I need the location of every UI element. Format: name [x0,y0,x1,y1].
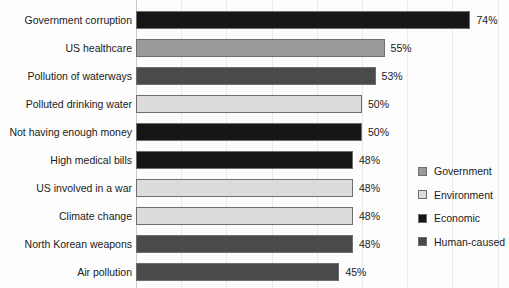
legend-item[interactable]: Economic [418,213,505,224]
legend-item[interactable]: Human-caused [418,237,505,248]
legend-swatch-icon [418,237,427,246]
category-label: Air pollution [77,258,132,286]
bar[interactable] [136,151,353,169]
bar-row: 45% [136,258,509,286]
bar-value-label: 74% [476,15,497,26]
bar-value-label: 48% [359,211,380,222]
category-label: High medical bills [50,146,132,174]
bar-value-label: 45% [345,267,366,278]
bar[interactable] [136,39,385,57]
bar-row: 50% [136,90,509,118]
legend-label: Economic [434,213,480,224]
bar[interactable] [136,95,362,113]
category-label: Polluted drinking water [26,90,132,118]
bar-value-label: 50% [368,99,389,110]
bar-row: 53% [136,62,509,90]
legend-swatch-icon [418,167,427,176]
bar-chart: Government corruptionUS healthcarePollut… [0,0,509,288]
legend-label: Human-caused [434,237,505,248]
legend-item[interactable]: Government [418,166,505,177]
category-label: US involved in a war [36,174,132,202]
bar-value-label: 55% [391,43,412,54]
category-label: US healthcare [65,34,132,62]
category-axis-labels: Government corruptionUS healthcarePollut… [0,0,132,288]
bar[interactable] [136,123,362,141]
bar-value-label: 50% [368,127,389,138]
bar[interactable] [136,179,353,197]
bar[interactable] [136,235,353,253]
category-label: North Korean weapons [25,230,132,258]
bar-value-label: 53% [382,71,403,82]
legend-label: Government [434,166,492,177]
category-label: Pollution of waterways [28,62,132,90]
bar-value-label: 48% [359,183,380,194]
legend-swatch-icon [418,190,427,199]
bar-value-label: 48% [359,239,380,250]
legend-label: Environment [434,190,493,201]
bar[interactable] [136,263,339,281]
legend-swatch-icon [418,214,427,223]
category-label: Climate change [59,202,132,230]
bar-row: 50% [136,118,509,146]
bar-value-label: 48% [359,155,380,166]
bar-row: 74% [136,6,509,34]
legend-item[interactable]: Environment [418,190,505,201]
bar[interactable] [136,11,470,29]
bar-row: 55% [136,34,509,62]
category-label: Not having enough money [9,118,132,146]
category-label: Government corruption [25,6,132,34]
bar[interactable] [136,207,353,225]
legend: GovernmentEnvironmentEconomicHuman-cause… [418,166,505,247]
bar[interactable] [136,67,376,85]
